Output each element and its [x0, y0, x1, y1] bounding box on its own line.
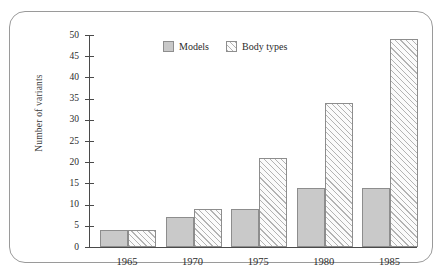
bar-models-1985	[362, 188, 390, 247]
x-tick-label: 1980	[313, 255, 334, 269]
x-tick-label: 1985	[379, 255, 400, 269]
bar-group	[362, 36, 418, 247]
x-tick-label: 1975	[248, 255, 269, 269]
figure-frame: Number of variants 05101520253035404550 …	[9, 11, 433, 263]
bar-group	[231, 36, 287, 247]
bar-models-1980	[297, 188, 325, 247]
bar-body-types-1980	[325, 103, 353, 247]
plot-area: 05101520253035404550 Models Body types	[89, 36, 417, 248]
bar-body-types-1970	[194, 209, 222, 247]
y-tick-label: 0	[74, 241, 79, 253]
y-tick-label: 5	[74, 219, 79, 231]
top-caption	[18, 0, 428, 3]
y-tick-label: 20	[70, 156, 80, 168]
y-tick-label: 50	[70, 29, 80, 41]
y-tick-label: 30	[70, 113, 80, 125]
bar-groups	[90, 36, 417, 247]
y-tick-label: 10	[70, 198, 80, 210]
y-tick-label: 40	[70, 71, 80, 83]
bar-body-types-1975	[259, 158, 287, 247]
bar-group	[100, 36, 156, 247]
x-tick-label: 1970	[182, 255, 203, 269]
x-axis-line	[89, 247, 417, 248]
y-tick-label: 45	[70, 50, 80, 62]
y-tick-label: 15	[70, 177, 80, 189]
bar-models-1975	[231, 209, 259, 247]
chart-page: Number of variants 05101520253035404550 …	[0, 0, 446, 277]
y-tick-label: 25	[70, 135, 80, 147]
bar-body-types-1965	[128, 230, 156, 247]
x-axis-labels: 19651970197519801985	[89, 255, 417, 271]
y-tick: 0	[85, 247, 94, 248]
bar-group	[297, 36, 353, 247]
y-tick-label: 35	[70, 92, 80, 104]
bar-models-1965	[100, 230, 128, 247]
bar-group	[166, 36, 222, 247]
bar-models-1970	[166, 217, 194, 247]
x-tick-label: 1965	[117, 255, 138, 269]
y-axis-title: Number of variants	[34, 58, 44, 168]
bar-body-types-1985	[390, 39, 418, 247]
